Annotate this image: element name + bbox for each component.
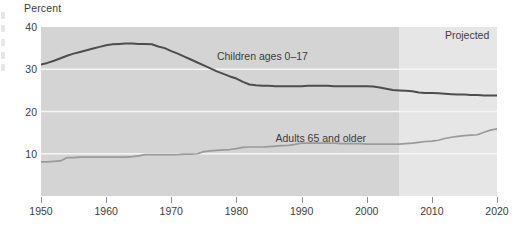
series-line-adults [41,129,497,162]
y-tick-label: 20 [3,107,37,117]
x-tick-mark [432,197,433,203]
y-tick-label: 10 [3,149,37,159]
adults-series-label: Adults 65 and older [276,132,366,144]
y-axis-tick-labels: 40302010 [0,0,37,233]
x-tick-mark [236,197,237,203]
x-tick-label: 1950 [21,206,61,217]
x-tick-label: 1980 [216,206,256,217]
x-tick-mark [497,197,498,203]
y-tick-label: 30 [3,64,37,74]
x-tick-label: 2000 [347,206,387,217]
x-tick-label: 1960 [86,206,126,217]
x-tick-mark [41,197,42,203]
y-tick-label: 40 [3,22,37,32]
x-tick-mark [171,197,172,203]
x-tick-label: 1970 [151,206,191,217]
children-series-label: Children ages 0–17 [217,50,308,62]
projected-label: Projected [445,29,489,41]
x-tick-mark [367,197,368,203]
percent-line-chart: Percent 40302010 19501960197019801990200… [0,0,517,233]
x-tick-label: 1990 [282,206,322,217]
x-tick-mark [106,197,107,203]
x-tick-label: 2010 [412,206,452,217]
x-tick-label: 2020 [477,206,517,217]
x-tick-mark [302,197,303,203]
